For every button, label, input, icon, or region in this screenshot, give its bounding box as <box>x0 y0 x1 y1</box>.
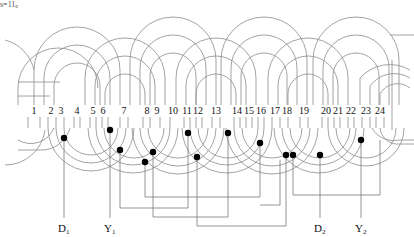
terminal-y1: Y1 <box>104 222 116 236</box>
connection-wires <box>64 130 380 226</box>
slot-number: 18 <box>282 105 292 116</box>
junction-dot <box>117 147 123 153</box>
slot-numbers: 1 2 3 4 5 6 7 8 9 10 11 12 13 14 15 16 1… <box>32 105 386 116</box>
terminal-y2: Y2 <box>355 222 367 236</box>
winding-diagram: s=11。 <box>0 0 414 237</box>
slot-number: 11 <box>182 105 192 116</box>
slot-number: 3 <box>59 105 64 116</box>
junction-dot <box>317 152 323 158</box>
slot-number: 13 <box>211 105 221 116</box>
top-end-turns <box>5 17 414 105</box>
slot-number: 6 <box>101 105 106 116</box>
slot-number: 8 <box>145 105 150 116</box>
caption: s=11。 <box>0 0 23 9</box>
slot-number: 23 <box>361 105 371 116</box>
bottom-end-turns <box>5 128 414 174</box>
slot-number: 12 <box>193 105 203 116</box>
terminal-labels: D1 Y1 D2 Y2 <box>58 222 367 236</box>
slot-number: 22 <box>346 105 356 116</box>
terminal-d2: D2 <box>314 222 326 236</box>
slot-number: 9 <box>155 105 160 116</box>
slot-number: 20 <box>321 105 331 116</box>
junction-dot <box>194 154 200 160</box>
slot-number: 21 <box>333 105 343 116</box>
junction-dot <box>142 159 148 165</box>
slot-number: 24 <box>375 105 385 116</box>
junction-dot <box>150 149 156 155</box>
slot-number: 15 <box>244 105 254 116</box>
junction-dot <box>290 152 296 158</box>
junction-dot <box>107 127 113 133</box>
junction-dot <box>358 137 364 143</box>
slot-number: 1 <box>32 105 37 116</box>
slot-number: 10 <box>168 105 178 116</box>
slot-number: 4 <box>75 105 80 116</box>
junction-dot <box>61 135 67 141</box>
slot-number: 16 <box>256 105 266 116</box>
slot-number: 5 <box>91 105 96 116</box>
junction-dot <box>185 130 191 136</box>
junction-dot <box>225 130 231 136</box>
junction-dot <box>257 140 263 146</box>
slot-number: 14 <box>232 105 242 116</box>
junction-dot <box>283 152 289 158</box>
slot-number: 2 <box>49 105 54 116</box>
slot-number: 19 <box>299 105 309 116</box>
terminal-d1: D1 <box>58 222 70 236</box>
slot-lines <box>28 60 392 130</box>
slot-number: 17 <box>270 105 280 116</box>
slot-number: 7 <box>122 105 127 116</box>
